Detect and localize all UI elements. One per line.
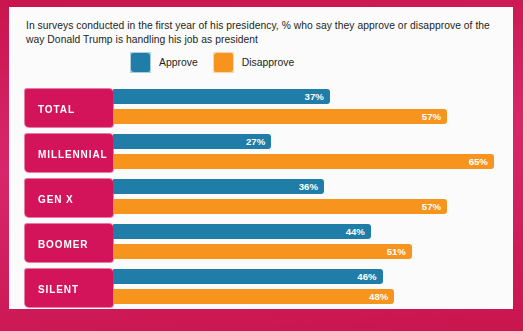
bar-value-approve: 37% <box>305 91 330 102</box>
bar-value-approve: 46% <box>357 271 382 282</box>
chart-row: BOOMER 44% 51% <box>9 222 513 267</box>
bar-value-approve: 36% <box>299 181 324 192</box>
chart-row: GEN X 36% 57% <box>9 177 513 222</box>
approve-swatch-icon <box>131 53 150 72</box>
bar-value-disapprove: 57% <box>422 111 447 122</box>
category-label: MILLENNIAL <box>25 147 108 160</box>
chart-row: TOTAL 37% 57% <box>9 87 513 132</box>
bar-disapprove: 57% <box>113 199 447 214</box>
row-bars: 46% 48% <box>113 267 507 309</box>
row-bars: 37% 57% <box>113 87 507 132</box>
category-label: BOOMER <box>25 237 88 250</box>
bar-disapprove: 65% <box>113 154 494 169</box>
legend-item-approve: Approve <box>131 53 198 72</box>
bar-disapprove: 48% <box>113 289 394 304</box>
chart-row: SILENT 46% 48% <box>9 267 513 309</box>
bar-value-disapprove: 65% <box>469 156 494 167</box>
legend-label-disapprove: Disapprove <box>242 57 295 68</box>
bar-value-approve: 27% <box>246 136 271 147</box>
bar-disapprove: 51% <box>113 244 412 259</box>
legend-label-approve: Approve <box>159 57 198 68</box>
bar-approve: 37% <box>113 89 330 104</box>
row-bars: 36% 57% <box>113 177 507 222</box>
bar-chart: TOTAL 37% 57% MILLENNIAL 27% <box>9 87 513 309</box>
bar-value-approve: 44% <box>346 226 371 237</box>
category-label: SILENT <box>25 282 79 295</box>
category-box-total: TOTAL <box>25 89 113 127</box>
chart-legend: Approve Disapprove <box>131 53 294 72</box>
bar-disapprove: 57% <box>113 109 447 124</box>
category-box-gen-x: GEN X <box>25 179 113 217</box>
bar-approve: 27% <box>113 134 271 149</box>
bar-approve: 36% <box>113 179 324 194</box>
infographic-poster: In surveys conducted in the first year o… <box>0 0 523 331</box>
bar-value-disapprove: 57% <box>422 201 447 212</box>
category-label: GEN X <box>25 192 74 205</box>
bar-approve: 44% <box>113 224 371 239</box>
category-label: TOTAL <box>25 102 75 115</box>
chart-row: MILLENNIAL 27% 65% <box>9 132 513 177</box>
bar-value-disapprove: 48% <box>369 291 394 302</box>
category-box-silent: SILENT <box>25 269 113 307</box>
legend-item-disapprove: Disapprove <box>214 53 295 72</box>
row-bars: 27% 65% <box>113 132 507 177</box>
page-title: In surveys conducted in the first year o… <box>26 19 496 47</box>
bar-approve: 46% <box>113 269 383 284</box>
bar-value-disapprove: 51% <box>387 246 412 257</box>
row-bars: 44% 51% <box>113 222 507 267</box>
disapprove-swatch-icon <box>214 53 233 72</box>
category-box-millennial: MILLENNIAL <box>25 134 113 172</box>
poster-panel: In surveys conducted in the first year o… <box>9 7 513 309</box>
category-box-boomer: BOOMER <box>25 224 113 262</box>
